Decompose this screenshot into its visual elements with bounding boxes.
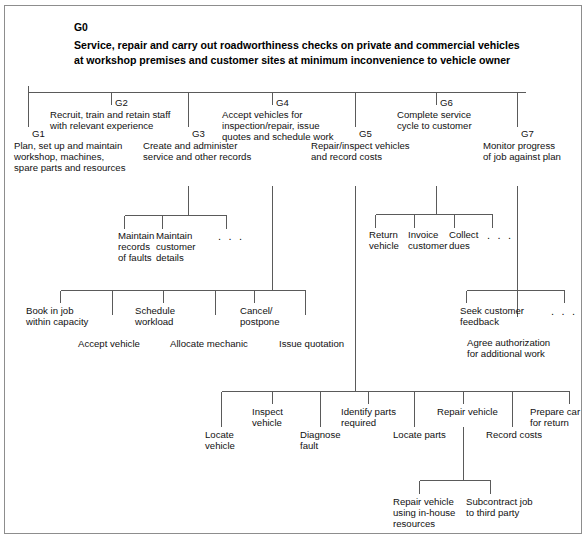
ellipsis-g7-children: . . . (551, 305, 577, 317)
node-agree-authorization-line-2: for additional work (467, 348, 545, 359)
node-issue-quotation: Issue quotation (279, 338, 344, 349)
node-return-vehicle-line-2: vehicle (369, 240, 399, 251)
node-locate-parts: Locate parts (393, 429, 446, 440)
node-g1-line-1: Plan, set up and maintain (14, 140, 122, 151)
node-schedule-workload-line-1: Schedule (135, 305, 175, 316)
node-g1-line-3: spare parts and resources (14, 162, 125, 173)
goal-id: G0 (74, 22, 88, 33)
node-seek-customer-feedback-line-2: feedback (460, 316, 499, 327)
goal-text-line-2: at workshop premises and customer sites … (74, 53, 510, 68)
node-book-in-job-line-1: Book in job (26, 305, 73, 316)
node-g4-line-2: inspection/repair, issue (222, 120, 320, 131)
node-maintain-records-line-2: records (118, 241, 150, 252)
node-repair-vehicle: Repair vehicle (437, 406, 498, 417)
node-identify-parts-line-2: required (341, 417, 376, 428)
node-subcontract-job-line-2: to third party (466, 507, 519, 518)
node-repair-in-house-line-3: resources (393, 518, 435, 529)
node-allocate-mechanic: Allocate mechanic (170, 338, 248, 349)
node-locate-vehicle-line-2: vehicle (205, 440, 235, 451)
node-id-g4: G4 (276, 97, 289, 108)
node-maintain-customer-line-3: details (156, 252, 184, 263)
connector-lines (0, 0, 588, 541)
node-agree-authorization-line-1: Agree authorization (467, 337, 550, 348)
node-id-g2: G2 (115, 97, 128, 108)
node-g4-line-1: Accept vehicles for (222, 109, 303, 120)
node-accept-vehicle: Accept vehicle (78, 338, 140, 349)
node-diagnose-fault-line-1: Diagnose (300, 429, 341, 440)
node-g2-line-1: Recruit, train and retain staff (50, 109, 170, 120)
node-schedule-workload-line-2: workload (135, 316, 173, 327)
ellipsis-g6-children: . . . (487, 229, 513, 241)
node-id-g3: G3 (192, 128, 205, 139)
node-return-vehicle-line-1: Return (369, 229, 398, 240)
node-g7-line-1: Monitor progress (483, 140, 555, 151)
node-inspect-vehicle-line-2: vehicle (252, 417, 282, 428)
node-inspect-vehicle-line-1: Inspect (252, 406, 283, 417)
node-subcontract-job-line-1: Subcontract job (466, 496, 533, 507)
node-g1-line-2: workshop, machines, (14, 151, 104, 162)
node-maintain-customer-line-1: Maintain (156, 230, 192, 241)
node-id-g7: G7 (521, 128, 534, 139)
node-repair-in-house-line-2: using in-house (393, 507, 455, 518)
node-g2-line-2: with relevant experience (50, 120, 153, 131)
node-diagnose-fault-line-2: fault (300, 440, 318, 451)
node-cancel-postpone-line-1: Cancel/ (240, 305, 273, 316)
node-g7-line-2: of job against plan (483, 151, 561, 162)
hta-diagram-page: G0 Service, repair and carry out roadwor… (0, 0, 588, 541)
node-cancel-postpone-line-2: postpone (240, 316, 279, 327)
node-collect-dues-line-1: Collect (449, 229, 478, 240)
node-g5-line-1: Repair/inspect vehicles (311, 140, 410, 151)
node-id-g1: G1 (32, 128, 45, 139)
node-id-g6: G6 (440, 97, 453, 108)
node-invoice-customer-line-1: Invoice (408, 229, 438, 240)
node-g5-line-2: and record costs (311, 151, 382, 162)
node-invoice-customer-line-2: customer (408, 240, 447, 251)
node-collect-dues-line-2: dues (449, 240, 470, 251)
node-g3-line-2: service and other records (143, 151, 251, 162)
node-seek-customer-feedback-line-1: Seek customer (460, 305, 524, 316)
node-identify-parts-line-1: Identify parts (341, 406, 396, 417)
node-id-g5: G5 (359, 128, 372, 139)
node-record-costs: Record costs (486, 429, 542, 440)
node-repair-in-house-line-1: Repair vehicle (393, 496, 454, 507)
node-book-in-job-line-2: within capacity (26, 316, 88, 327)
ellipsis-g3-children: . . . (218, 230, 244, 242)
node-prepare-car-line-2: for return (530, 417, 569, 428)
node-maintain-records-line-3: of faults (118, 252, 152, 263)
goal-text-line-1: Service, repair and carry out roadworthi… (74, 38, 520, 53)
node-maintain-records-line-1: Maintain (118, 230, 154, 241)
node-maintain-customer-line-2: customer (156, 241, 195, 252)
node-prepare-car-line-1: Prepare car (530, 406, 580, 417)
node-locate-vehicle-line-1: Locate (205, 429, 234, 440)
node-g6-line-2: cycle to customer (397, 120, 472, 131)
node-g6-line-1: Complete service (397, 109, 471, 120)
